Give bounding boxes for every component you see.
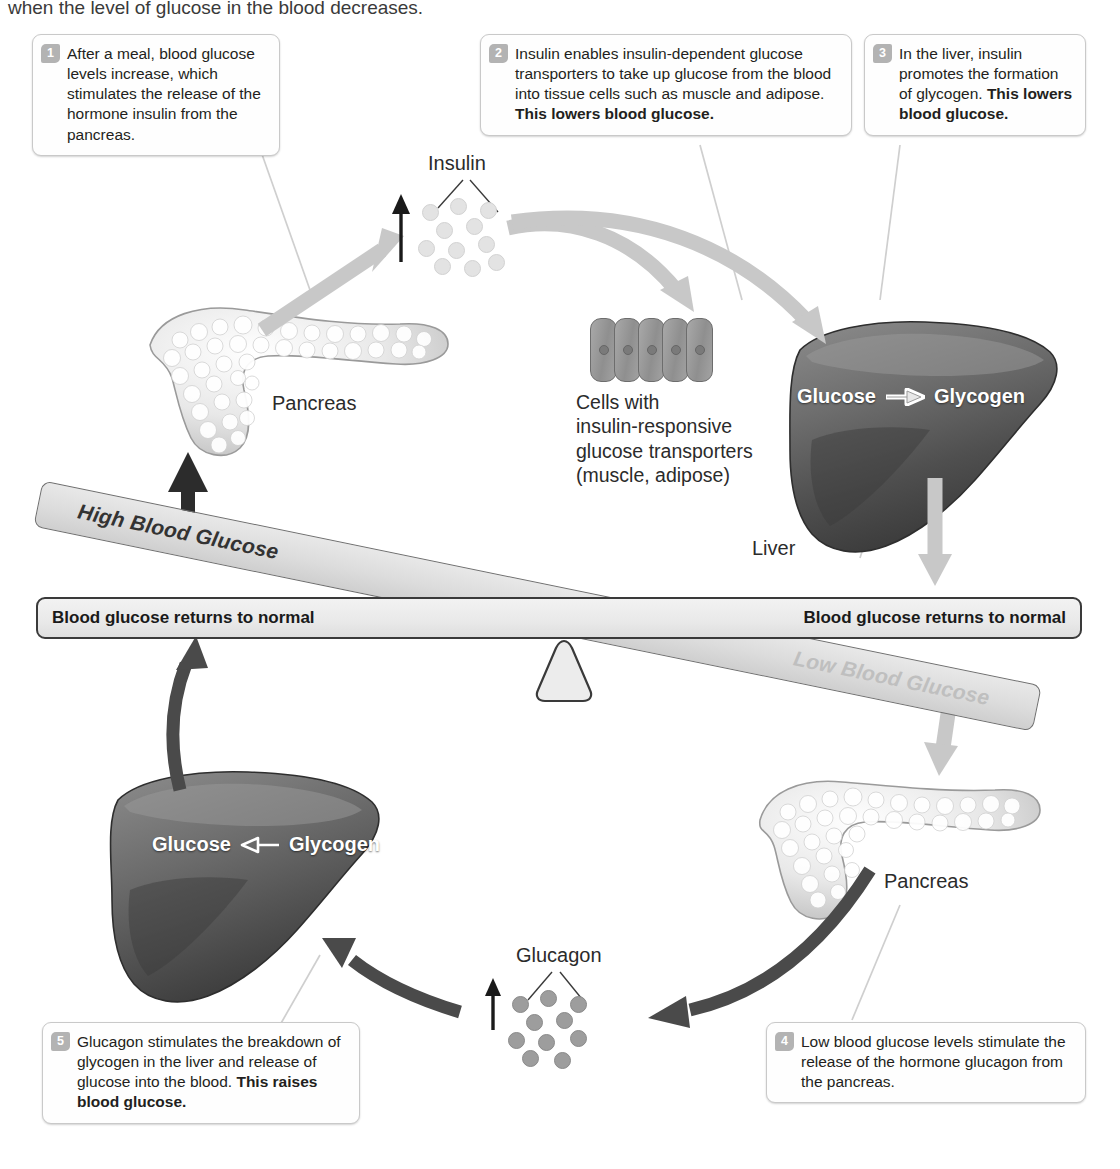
callout-step-5[interactable]: 5 Glucagon stimulates the breakdown of g… [42, 1022, 360, 1124]
arrow-pancreas-to-insulin [262, 228, 404, 330]
cell [614, 318, 641, 382]
step-text: After a meal, blood glucose levels incre… [67, 45, 261, 143]
pancreas-top-label: Pancreas [272, 392, 357, 415]
liver-bottom-illustration [111, 772, 379, 1002]
cell [662, 318, 689, 382]
liver-bottom-reaction: Glucose Glycogen [152, 833, 380, 856]
step-number-badge: 3 [873, 44, 892, 63]
insulin-label: Insulin [428, 152, 486, 175]
blood-glucose-normal-label-right: Blood glucose returns to normal [803, 608, 1066, 628]
step-text: Insulin enables insulin-dependent glucos… [515, 45, 831, 102]
nucleus-icon [623, 345, 633, 355]
pancreas-bottom-illustration [760, 781, 1040, 919]
cell [638, 318, 665, 382]
glucose-term: Glucose [152, 833, 231, 856]
nucleus-icon [695, 345, 705, 355]
callout-step-2[interactable]: 2 Insulin enables insulin-dependent gluc… [480, 34, 852, 136]
glucose-term: Glucose [797, 385, 876, 408]
step-bold-text: This lowers blood glucose. [515, 105, 714, 122]
cells-caption-line-3: glucose transporters [576, 439, 753, 463]
glycogen-term: Glycogen [289, 833, 380, 856]
step-number-badge: 2 [489, 44, 508, 63]
insulin-molecules [418, 196, 518, 276]
callout-step-4[interactable]: 4 Low blood glucose levels stimulate the… [766, 1022, 1086, 1103]
nucleus-icon [671, 345, 681, 355]
insulin-up-arrow-icon [392, 194, 410, 262]
cells-caption: Cells with insulin-responsive glucose tr… [576, 390, 753, 488]
glucagon-molecules [508, 988, 608, 1068]
glycogen-term: Glycogen [934, 385, 1025, 408]
step-number-badge: 5 [51, 1032, 70, 1051]
insulin-responsive-cells-illustration [590, 318, 710, 382]
cells-caption-line-2: insulin-responsive [576, 414, 753, 438]
step-number-badge: 1 [41, 44, 60, 63]
cells-caption-line-4: (muscle, adipose) [576, 463, 753, 487]
right-arrow-icon [885, 388, 925, 406]
callout-step-1[interactable]: 1 After a meal, blood glucose levels inc… [32, 34, 280, 156]
glucagon-up-arrow-icon [485, 978, 501, 1030]
callout-step-3[interactable]: 3 In the liver, insulin promotes the for… [864, 34, 1086, 136]
arrow-liver-to-beam-left [173, 636, 208, 790]
arrow-glucagon-to-liver [322, 938, 460, 1012]
glucagon-label: Glucagon [516, 944, 602, 967]
cell [590, 318, 617, 382]
liver-label: Liver [752, 537, 795, 560]
pancreas-bottom-label: Pancreas [884, 870, 969, 893]
liver-top-illustration [790, 322, 1057, 552]
step-number-badge: 4 [775, 1032, 794, 1051]
cells-caption-line-1: Cells with [576, 390, 753, 414]
step-text: Low blood glucose levels stimulate the r… [801, 1033, 1066, 1090]
pancreas-top-illustration [150, 308, 448, 455]
left-arrow-icon [240, 836, 280, 854]
fulcrum-triangle [537, 641, 591, 701]
cell [686, 318, 713, 382]
nucleus-icon [647, 345, 657, 355]
blood-glucose-normal-label-left: Blood glucose returns to normal [52, 608, 315, 628]
liver-top-reaction: Glucose Glycogen [797, 385, 1025, 408]
nucleus-icon [599, 345, 609, 355]
normal-glucose-beam: Blood glucose returns to normal Blood gl… [36, 597, 1082, 639]
